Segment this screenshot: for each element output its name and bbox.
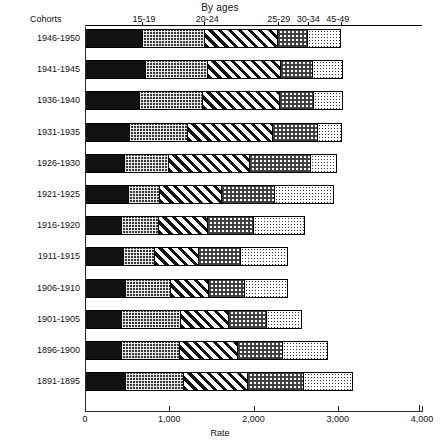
x-tick-0 <box>85 406 86 412</box>
x-axis-title: Rate <box>0 428 440 438</box>
bar-segment-45-49 <box>313 92 342 109</box>
bar-segment-15-19 <box>86 155 124 172</box>
bar-segment-45-49 <box>317 124 341 141</box>
top-axis-tick-5 <box>341 22 342 26</box>
bar-segment-15-19 <box>86 342 121 359</box>
top-axis-tick-2 <box>204 22 205 26</box>
bar-segment-20-24 <box>139 92 203 109</box>
x-tick-2000 <box>254 406 255 412</box>
x-tick-3000 <box>338 406 339 412</box>
cohort-label: 1911-1915 <box>38 251 80 261</box>
cohort-label: 1941-1945 <box>37 64 80 74</box>
bar-segment-30-34 <box>198 248 240 265</box>
top-axis-tick-4 <box>308 22 309 26</box>
bar-segment-25-29 <box>168 155 248 172</box>
x-tick-label-2000: 2,000 <box>242 414 265 424</box>
bar-segment-20-24 <box>128 186 159 203</box>
stacked-bar-chart: By ages Cohorts 15-1920-2425-2930-3445-4… <box>0 0 440 447</box>
bar-segment-25-29 <box>170 280 208 297</box>
bar-segment-20-24 <box>123 248 154 265</box>
x-axis-end-cap <box>419 405 420 412</box>
bar-row <box>85 60 343 79</box>
bar-segment-20-24 <box>121 217 158 234</box>
bar-segment-20-24 <box>121 342 179 359</box>
bar-segment-15-19 <box>86 186 128 203</box>
bar-segment-45-49 <box>274 186 333 203</box>
bar-segment-15-19 <box>86 280 125 297</box>
bar-segment-45-49 <box>240 248 287 265</box>
bar-row <box>85 310 302 329</box>
cohort-label: 1946-1950 <box>37 33 80 43</box>
bar-segment-25-29 <box>154 248 199 265</box>
bar-segment-25-29 <box>187 124 272 141</box>
bar-segment-20-24 <box>125 280 170 297</box>
bar-segment-45-49 <box>266 311 301 328</box>
bar-segment-30-34 <box>247 373 303 390</box>
bar-row <box>85 154 337 173</box>
bar-segment-25-29 <box>158 217 206 234</box>
bar-segment-30-34 <box>228 311 266 328</box>
chart-title: By ages <box>0 2 440 13</box>
cohort-label: 1901-1905 <box>37 314 80 324</box>
bar-segment-30-34 <box>277 30 307 47</box>
bar-segment-25-29 <box>207 61 281 78</box>
bar-row <box>85 216 305 235</box>
bar-row <box>85 341 328 360</box>
bar-segment-30-34 <box>208 280 245 297</box>
cohort-label: 1896-1900 <box>37 345 80 355</box>
cohort-label: 1891-1895 <box>37 376 80 386</box>
x-tick-label-4000: 4,000 <box>411 414 434 424</box>
age-group-label-15-19: 15-19 <box>132 14 155 24</box>
bar-segment-15-19 <box>86 373 125 390</box>
bar-segment-20-24 <box>124 155 169 172</box>
bar-row <box>85 91 343 110</box>
x-tick-4000 <box>422 406 423 412</box>
age-group-label-20-24: 20-24 <box>196 14 219 24</box>
bar-segment-45-49 <box>307 30 340 47</box>
x-tick-label-3000: 3,000 <box>327 414 350 424</box>
bar-segment-30-34 <box>237 342 283 359</box>
bar-segment-30-34 <box>272 124 317 141</box>
bar-segment-45-49 <box>282 342 327 359</box>
y-axis-line <box>85 27 86 412</box>
bar-segment-15-19 <box>86 61 145 78</box>
bar-segment-25-29 <box>180 311 228 328</box>
bar-segment-30-34 <box>249 155 310 172</box>
bar-segment-45-49 <box>312 61 342 78</box>
top-axis-tick-1 <box>142 22 143 26</box>
cohort-label: 1931-1935 <box>37 127 80 137</box>
bar-segment-30-34 <box>280 61 312 78</box>
cohort-label-column: 1946-19501941-19451936-19401931-19351926… <box>0 27 80 402</box>
x-tick-label-0: 0 <box>82 414 87 424</box>
bar-segment-20-24 <box>125 373 184 390</box>
cohort-label: 1936-1940 <box>37 95 80 105</box>
bar-segment-30-34 <box>279 92 313 109</box>
bar-segment-15-19 <box>86 30 142 47</box>
bar-segment-20-24 <box>121 311 179 328</box>
bar-segment-30-34 <box>207 217 254 234</box>
bar-segment-25-29 <box>202 92 279 109</box>
cohort-label: 1926-1930 <box>37 158 80 168</box>
bar-segment-25-29 <box>183 373 247 390</box>
top-axis-line <box>85 25 422 26</box>
bar-segment-15-19 <box>86 248 123 265</box>
bar-row <box>85 29 341 48</box>
bar-segment-20-24 <box>129 124 188 141</box>
bar-row <box>85 185 334 204</box>
bar-row <box>85 372 353 391</box>
plot-area <box>85 27 422 402</box>
bar-segment-30-34 <box>221 186 274 203</box>
bar-segment-15-19 <box>86 92 139 109</box>
y-axis-title: Cohorts <box>30 14 62 24</box>
age-group-label-45-49: 45-49 <box>326 14 349 24</box>
bar-row <box>85 123 342 142</box>
cohort-label: 1916-1920 <box>37 220 80 230</box>
bar-segment-45-49 <box>244 280 287 297</box>
bar-segment-45-49 <box>303 373 353 390</box>
bar-segment-15-19 <box>86 124 129 141</box>
cohort-label: 1906-1910 <box>37 283 80 293</box>
bar-segment-25-29 <box>159 186 221 203</box>
bar-segment-45-49 <box>253 217 304 234</box>
top-axis-tick-3 <box>278 22 279 26</box>
bar-segment-25-29 <box>204 30 277 47</box>
